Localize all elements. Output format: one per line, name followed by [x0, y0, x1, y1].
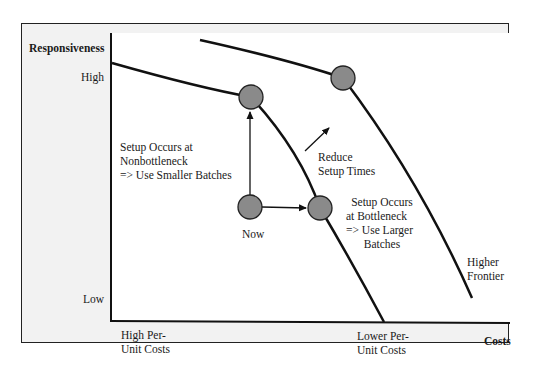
annotation-bottleneck: Setup Occurs at Bottleneck => Use Larger… — [342, 195, 422, 251]
annotation-bottleneck-line2: at Bottleneck — [342, 209, 422, 223]
annotation-reduce-setup: Reduce Setup Times — [318, 150, 375, 178]
annotation-higher-frontier-line1: Higher — [467, 255, 504, 269]
annotation-nonbottleneck-line2: Nonbottleneck — [120, 154, 232, 168]
node-higher-frontier — [331, 66, 355, 90]
annotation-bottleneck-line1: Setup Occurs — [342, 195, 422, 209]
x-axis-title: Costs — [484, 334, 511, 348]
x-axis-right-label-line2: Unit Costs — [357, 343, 409, 357]
y-axis-low-label: Low — [60, 292, 104, 306]
annotation-now: Now — [242, 227, 264, 241]
x-axis-left-label-line1: High Per- — [121, 328, 170, 342]
annotation-bottleneck-line3: => Use Larger — [342, 223, 422, 237]
node-larger-batches — [308, 196, 332, 220]
x-axis-right-label-line1: Lower Per- — [357, 329, 409, 343]
node-smaller-batches — [239, 85, 263, 109]
annotation-nonbottleneck-line1: Setup Occurs at — [120, 140, 232, 154]
annotation-nonbottleneck-line3: => Use Smaller Batches — [120, 168, 232, 182]
annotation-reduce-setup-line1: Reduce — [318, 150, 375, 164]
annotation-higher-frontier: Higher Frontier — [467, 255, 504, 283]
x-axis-right-label: Lower Per- Unit Costs — [357, 329, 409, 357]
annotation-bottleneck-line4: Batches — [342, 237, 422, 251]
annotation-nonbottleneck: Setup Occurs at Nonbottleneck => Use Sma… — [120, 140, 232, 182]
y-axis-high-label: High — [60, 70, 104, 84]
y-axis-title: Responsiveness — [29, 41, 104, 55]
x-axis-left-label-line2: Unit Costs — [121, 342, 170, 356]
annotation-reduce-setup-line2: Setup Times — [318, 164, 375, 178]
x-axis-left-label: High Per- Unit Costs — [121, 328, 170, 356]
frontier-diagram — [0, 0, 536, 378]
node-now — [238, 195, 262, 219]
annotation-higher-frontier-line2: Frontier — [467, 269, 504, 283]
